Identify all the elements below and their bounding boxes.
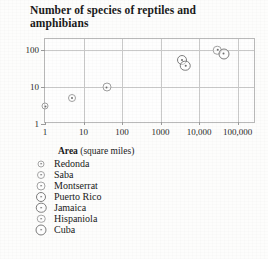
y-axis-tick — [41, 50, 45, 51]
legend-marker-icon — [30, 191, 52, 202]
x-axis-caption-units: (square miles) — [78, 146, 134, 156]
x-axis-tick-label: 1000 — [152, 127, 170, 137]
legend-marker-icon — [30, 180, 52, 191]
figure-container: Number of species of reptiles and amphib… — [0, 0, 268, 259]
x-axis-tick-label: 100,000 — [223, 127, 252, 137]
legend-item-label: Hispaniola — [52, 213, 97, 224]
data-point-center — [223, 53, 225, 55]
legend-item[interactable]: Puerto Rico — [30, 191, 230, 202]
x-gridline — [199, 39, 200, 122]
x-axis-tick-label: 100 — [115, 127, 129, 137]
plot-area: 110100100010,000100,000110100 — [44, 38, 255, 123]
data-point — [180, 60, 191, 71]
x-gridline — [122, 39, 123, 122]
x-axis-caption-bold: Area — [58, 146, 78, 156]
y-gridline — [45, 87, 254, 88]
x-axis-tick-label: 10,000 — [187, 127, 212, 137]
plot-wrapper: 110100100010,000100,000110100 — [0, 0, 268, 140]
figure-footnote — [30, 250, 245, 259]
data-point — [102, 83, 111, 92]
legend-item[interactable]: Redonda — [30, 158, 230, 169]
legend-marker-icon — [30, 169, 52, 180]
x-gridline — [84, 39, 85, 122]
legend-item-label: Montserrat — [52, 180, 98, 191]
x-axis-tick-label: 1 — [43, 127, 48, 137]
data-point-center — [44, 105, 46, 107]
y-axis-tick-label: 100 — [26, 45, 40, 55]
x-gridline — [161, 39, 162, 122]
legend-item[interactable]: Jamaica — [30, 202, 230, 213]
legend-marker-icon — [30, 202, 52, 213]
legend-marker-icon — [30, 224, 52, 235]
legend-item-label: Puerto Rico — [52, 191, 102, 202]
data-point-center — [106, 86, 108, 88]
data-point-center — [184, 65, 186, 67]
legend: RedondaSabaMontserratPuerto RicoJamaicaH… — [30, 158, 230, 235]
x-axis-tick — [238, 122, 239, 125]
x-axis-tick — [122, 122, 123, 125]
legend-item-label: Redonda — [52, 158, 90, 169]
y-axis-tick — [41, 87, 45, 88]
legend-item[interactable]: Saba — [30, 169, 230, 180]
x-axis-tick — [199, 122, 200, 125]
x-axis-tick-label: 10 — [79, 127, 88, 137]
x-axis-tick — [84, 122, 85, 125]
legend-item[interactable]: Hispaniola — [30, 213, 230, 224]
data-point — [42, 103, 49, 110]
legend-marker-icon — [30, 158, 52, 169]
data-point — [68, 94, 76, 102]
y-axis-tick-label: 10 — [30, 82, 39, 92]
legend-marker-icon — [30, 213, 52, 224]
x-axis-tick — [161, 122, 162, 125]
legend-item-label: Jamaica — [52, 202, 86, 213]
legend-item-label: Saba — [52, 169, 73, 180]
data-point-center — [71, 97, 73, 99]
x-gridline — [238, 39, 239, 122]
data-point — [218, 48, 229, 59]
y-axis-tick-label: 1 — [35, 119, 40, 129]
legend-item-label: Cuba — [52, 224, 75, 235]
x-axis-tick — [45, 122, 46, 125]
x-axis-caption: Area (square miles) — [58, 146, 134, 156]
legend-item[interactable]: Montserrat — [30, 180, 230, 191]
legend-item[interactable]: Cuba — [30, 224, 230, 235]
y-axis-tick — [41, 124, 45, 125]
